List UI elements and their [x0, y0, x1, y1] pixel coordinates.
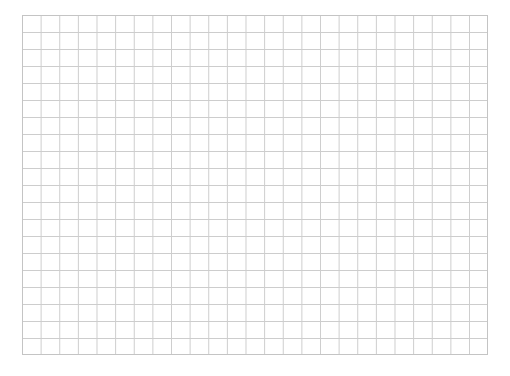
- blank-grid: [22, 15, 488, 355]
